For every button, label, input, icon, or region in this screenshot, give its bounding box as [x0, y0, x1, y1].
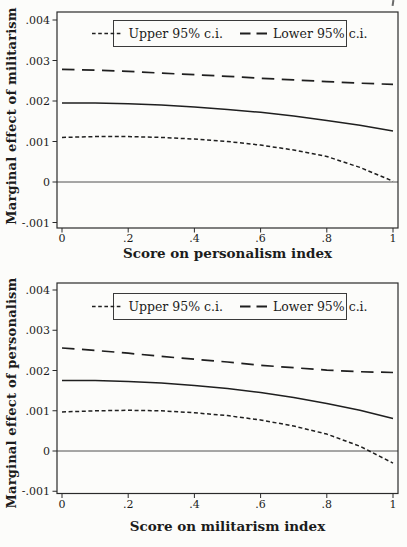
legend-long-dash-sample-icon: [240, 303, 267, 310]
figure-page: -.0010.001.002.003.0040.2.4.6.81 Margina…: [0, 0, 407, 547]
y-tick-label: .002: [26, 365, 51, 378]
legend-short-dash-sample-icon: [92, 303, 122, 310]
legend-label: Lower 95% c.i.: [273, 299, 368, 314]
x-tick-label: .2: [123, 498, 134, 511]
y-tick-label: -.001: [22, 485, 50, 498]
series-solid-line: [62, 381, 393, 419]
x-tick-label: .6: [255, 232, 266, 245]
x-tick-label: 0: [59, 498, 66, 511]
y-axis-title: Marginal effect of militarism: [4, 7, 19, 225]
y-tick-label: 0: [43, 176, 50, 189]
x-tick-label: .2: [123, 232, 134, 245]
legend-label: Upper 95% c.i.: [128, 26, 223, 41]
chart-marginal-effect-of-militarism: -.0010.001.002.003.0040.2.4.6.81 Margina…: [0, 0, 407, 273]
y-tick-label: .003: [26, 55, 51, 68]
legend-label: Lower 95% c.i.: [273, 26, 368, 41]
x-tick-label: 1: [390, 232, 397, 245]
legend: Upper 95% c.i.Lower 95% c.i.: [113, 293, 347, 320]
legend-item: Upper 95% c.i.: [92, 26, 223, 41]
legend-short-dash-sample-icon: [92, 30, 122, 37]
series-long-line: [62, 69, 393, 84]
y-tick-label: 0: [43, 445, 50, 458]
y-tick-label: .001: [26, 405, 51, 418]
series-short-line: [62, 410, 393, 463]
legend-item: Lower 95% c.i.: [240, 299, 368, 314]
series-solid-line: [62, 103, 393, 131]
x-tick-label: .4: [189, 498, 200, 511]
x-tick-label: .6: [255, 498, 266, 511]
legend-long-dash-sample-icon: [240, 30, 267, 37]
x-tick-label: .4: [189, 232, 200, 245]
legend-label: Upper 95% c.i.: [128, 299, 223, 314]
y-tick-label: .003: [26, 324, 51, 337]
y-tick-label: -.001: [22, 217, 50, 230]
x-tick-label: .8: [322, 232, 333, 245]
legend: Upper 95% c.i.Lower 95% c.i.: [113, 20, 347, 47]
legend-item: Upper 95% c.i.: [92, 299, 223, 314]
y-tick-label: .002: [26, 95, 51, 108]
legend-item: Lower 95% c.i.: [240, 26, 368, 41]
y-tick-label: .001: [26, 136, 51, 149]
series-long-line: [62, 348, 393, 373]
chart-marginal-effect-of-personalism: -.0010.001.002.003.0040.2.4.6.81 Margina…: [0, 273, 407, 547]
x-axis-title: Score on personalism index: [57, 245, 398, 261]
y-tick-label: .004: [26, 14, 51, 27]
y-tick-label: .004: [26, 284, 51, 297]
x-tick-label: .8: [322, 498, 333, 511]
series-short-line: [62, 137, 393, 182]
x-tick-label: 1: [390, 498, 397, 511]
x-axis-title: Score on militarism index: [57, 518, 398, 534]
y-axis-title: Marginal effect of personalism: [4, 277, 19, 508]
x-tick-label: 0: [59, 232, 66, 245]
